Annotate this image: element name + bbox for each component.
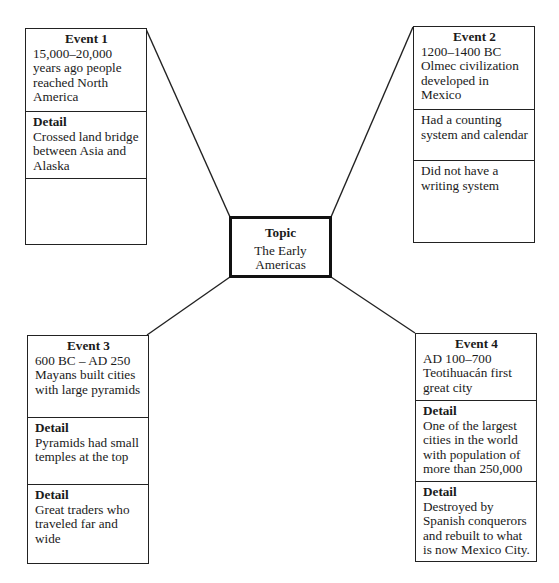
detail-label: Detail bbox=[423, 404, 530, 419]
event-text: AD 100–700 Teotihuacán first great city bbox=[423, 352, 530, 396]
event-2-box: Event 2 1200–1400 BC Olmec civilization … bbox=[413, 26, 535, 243]
detail-label: Detail bbox=[35, 421, 142, 436]
detail-label: Detail bbox=[33, 115, 140, 130]
event-title: Event 2 bbox=[421, 30, 528, 45]
event-1-detail-1: Detail Crossed land bridge between Asia … bbox=[26, 111, 146, 178]
event-text: 1200–1400 BC Olmec civilization develope… bbox=[421, 45, 528, 103]
event-2-detail-1: Had a counting system and calendar bbox=[414, 109, 534, 160]
event-4-box: Event 4 AD 100–700 Teotihuacán first gre… bbox=[415, 333, 537, 562]
event-3-box: Event 3 600 BC – AD 250 Mayans built cit… bbox=[27, 335, 149, 564]
event-title: Event 4 bbox=[423, 337, 530, 352]
detail-text: Great traders who traveled far and wide bbox=[35, 503, 142, 547]
topic-label: Topic bbox=[232, 226, 329, 241]
detail-text: Crossed land bridge between Asia and Ala… bbox=[33, 130, 140, 174]
detail-label: Detail bbox=[423, 485, 530, 500]
event-text: 15,000–20,000 years ago people reached N… bbox=[33, 47, 140, 105]
topic-box: Topic The Early Americas bbox=[229, 216, 332, 278]
event-3-detail-1: Detail Pyramids had small temples at the… bbox=[28, 417, 148, 484]
event-4-detail-1: Detail One of the largest cities in the … bbox=[416, 400, 536, 481]
detail-text: Destroyed by Spanish conquerors and rebu… bbox=[423, 500, 530, 558]
detail-text: Pyramids had small temples at the top bbox=[35, 436, 142, 465]
event-4-detail-2: Detail Destroyed by Spanish conquerors a… bbox=[416, 481, 536, 561]
event-1-box: Event 1 15,000–20,000 years ago people r… bbox=[25, 28, 147, 245]
concept-web-diagram: Event 1 15,000–20,000 years ago people r… bbox=[0, 0, 559, 583]
event-3-detail-2: Detail Great traders who traveled far an… bbox=[28, 484, 148, 563]
connector-event-4 bbox=[331, 277, 415, 333]
event-1-header: Event 1 15,000–20,000 years ago people r… bbox=[26, 29, 146, 111]
event-2-detail-2: Did not have a writing system bbox=[414, 160, 534, 242]
connector-event-3 bbox=[147, 277, 230, 335]
event-title: Event 1 bbox=[33, 32, 140, 47]
detail-text: One of the largest cities in the world w… bbox=[423, 419, 530, 477]
event-3-header: Event 3 600 BC – AD 250 Mayans built cit… bbox=[28, 336, 148, 417]
event-1-detail-2-empty bbox=[26, 178, 146, 244]
event-2-header: Event 2 1200–1400 BC Olmec civilization … bbox=[414, 27, 534, 109]
detail-text: Had a counting system and calendar bbox=[421, 113, 528, 142]
detail-label: Detail bbox=[35, 488, 142, 503]
detail-text: Did not have a writing system bbox=[421, 164, 528, 193]
event-text: 600 BC – AD 250 Mayans built cities with… bbox=[35, 354, 142, 398]
connector-event-1 bbox=[146, 29, 230, 217]
event-title: Event 3 bbox=[35, 339, 142, 354]
connector-event-2 bbox=[331, 27, 413, 217]
event-4-header: Event 4 AD 100–700 Teotihuacán first gre… bbox=[416, 334, 536, 400]
topic-text: The Early Americas bbox=[232, 244, 329, 273]
